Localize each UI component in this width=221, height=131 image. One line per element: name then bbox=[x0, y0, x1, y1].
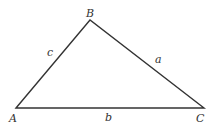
side-label-a: a bbox=[155, 53, 162, 66]
side-label-c: c bbox=[47, 46, 53, 59]
triangle-diagram: B c a A b C bbox=[0, 0, 221, 131]
vertex-label-a: A bbox=[8, 112, 17, 125]
side-label-b: b bbox=[105, 111, 112, 124]
triangle-abc bbox=[16, 20, 204, 108]
vertex-label-b: B bbox=[85, 7, 94, 20]
vertex-label-c: C bbox=[196, 112, 205, 125]
